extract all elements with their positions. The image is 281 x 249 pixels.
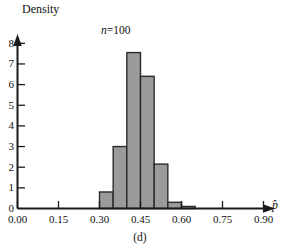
sample-size-annotation: n=100 (101, 25, 131, 37)
y-axis-label: Density (22, 3, 59, 15)
x-axis-ticks (18, 201, 264, 209)
y-tick-label: 1 (0, 182, 14, 193)
x-tick-label: 0.60 (162, 214, 202, 225)
x-tick-label: 0.15 (39, 214, 79, 225)
x-tick-label: 0.30 (80, 214, 120, 225)
y-tick-label: 2 (0, 162, 14, 173)
histogram-figure: Density n=100 p̂ (d) 0123456780.000.150.… (0, 0, 280, 249)
histogram-bars (100, 53, 196, 209)
x-axis-label: p̂ (272, 199, 278, 211)
x-tick-label: 0.75 (203, 214, 243, 225)
y-axis-arrowhead (13, 34, 22, 46)
figure-caption: (d) (0, 232, 280, 244)
y-axis-ticks (18, 43, 26, 188)
histogram-bar (141, 76, 155, 208)
y-tick-label: 4 (0, 120, 14, 131)
y-tick-label: 5 (0, 100, 14, 111)
histogram-bar (127, 53, 141, 209)
y-tick-label: 8 (0, 38, 14, 49)
annotation-value: 100 (113, 24, 130, 36)
histogram-bar (154, 164, 168, 208)
y-tick-label: 7 (0, 58, 14, 69)
histogram-bar (100, 192, 114, 209)
plot-canvas (0, 0, 280, 249)
x-tick-label: 0.90 (244, 214, 281, 225)
x-tick-label: 0.00 (0, 214, 38, 225)
histogram-bar (113, 147, 127, 209)
x-tick-label: 0.45 (121, 214, 161, 225)
y-tick-label: 3 (0, 141, 14, 152)
y-tick-label: 6 (0, 79, 14, 90)
